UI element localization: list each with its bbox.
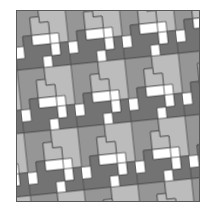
tessellation-pattern (17, 11, 200, 202)
tessellation-frame (16, 10, 200, 202)
tile-fill (17, 11, 200, 202)
